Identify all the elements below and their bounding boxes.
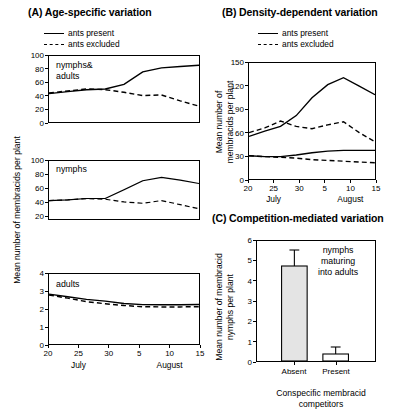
y-tick-mark — [245, 156, 248, 157]
y-tick-mark — [45, 216, 48, 217]
x-tick-label: 15 — [196, 349, 205, 358]
y-tick-label: 80 — [22, 64, 44, 73]
y-tick-label: 20 — [22, 105, 44, 114]
y-tick-mark — [45, 309, 48, 310]
y-tick-label: 0 — [222, 176, 244, 185]
y-tick-label: 2 — [234, 317, 252, 326]
x-tick-label: 30 — [295, 184, 304, 193]
panel-a-title: (A) Age-specific variation — [28, 6, 152, 18]
x-tick-label: 10 — [165, 349, 174, 358]
y-tick-label: 60 — [22, 78, 44, 87]
panel-c-x-caption-line1: Conspecific membracid — [276, 388, 365, 398]
series-ants-excluded-high-line — [249, 121, 375, 142]
x-tick-mark — [336, 362, 337, 365]
y-tick-mark — [253, 260, 256, 261]
x-tick-label: 20 — [44, 349, 53, 358]
x-tick-label: Present — [322, 367, 350, 376]
panel-a1-label-line1: nymphs& — [56, 60, 93, 70]
bar-absent — [282, 266, 308, 361]
panel-c-y-axis-label-line2: nymphs per plant — [225, 274, 235, 340]
y-tick-mark — [245, 132, 248, 133]
panel-c-annotation-line1: nymphs — [323, 245, 354, 255]
x-tick-mark — [294, 362, 295, 365]
month-label-august: August — [337, 194, 363, 204]
panel-c-title: (C) Competition-mediated variation — [212, 212, 384, 224]
x-tick-mark — [108, 345, 109, 348]
month-label-august: August — [157, 360, 183, 370]
y-tick-label: 1 — [22, 323, 44, 332]
panel-c-annotation: nymphs maturing into adults — [318, 245, 358, 278]
series-ants-present-line — [49, 177, 199, 200]
panel-c-y-axis-label-line1: Mean number of membracid — [214, 253, 224, 360]
y-tick-mark — [45, 95, 48, 96]
panel-a-legend: ants present ants excluded — [44, 28, 120, 50]
series-ants-present-high-line — [249, 78, 375, 137]
x-tick-label: Absent — [282, 367, 307, 376]
y-tick-mark — [245, 62, 248, 63]
legend-row-ants-present: ants present — [44, 28, 120, 39]
panel-c-x-axis-caption: Conspecific membracid competitors — [256, 388, 386, 409]
panel-b-title: (B) Density-dependent variation — [222, 6, 378, 18]
y-tick-mark — [45, 188, 48, 189]
y-tick-mark — [253, 321, 256, 322]
y-tick-label: 4 — [22, 269, 44, 278]
x-tick-mark — [139, 345, 140, 348]
bar-present — [323, 354, 349, 361]
y-tick-mark — [45, 160, 48, 161]
y-tick-mark — [45, 202, 48, 203]
panel-b-legend: ants present ants excluded — [258, 28, 334, 50]
legend-label-ants-present: ants present — [282, 28, 328, 39]
x-tick-label: 15 — [372, 184, 381, 193]
dashed-line-key-icon — [44, 41, 64, 48]
panel-a1-inplot-label: nymphs& adults — [56, 60, 93, 81]
legend-label-ants-present: ants present — [68, 28, 114, 39]
legend-row-ants-present: ants present — [258, 28, 334, 39]
y-tick-label: 0 — [22, 341, 44, 350]
x-tick-mark — [200, 345, 201, 348]
y-tick-label: 4 — [234, 276, 252, 285]
y-tick-label: 80 — [22, 170, 44, 179]
legend-label-ants-excluded: ants excluded — [282, 39, 334, 50]
x-tick-mark — [78, 345, 79, 348]
panel-a2-inplot-label: nymphs — [56, 164, 87, 175]
panel-b-plot — [248, 62, 376, 180]
x-tick-mark — [169, 345, 170, 348]
y-tick-mark — [45, 123, 48, 124]
x-tick-mark — [248, 180, 249, 183]
legend-label-ants-excluded: ants excluded — [68, 39, 120, 50]
y-tick-label: 100 — [22, 156, 44, 165]
y-tick-label: 60 — [222, 128, 244, 137]
legend-row-ants-excluded: ants excluded — [44, 39, 120, 50]
x-tick-label: 25 — [74, 349, 83, 358]
y-tick-mark — [45, 68, 48, 69]
y-tick-label: 0 — [22, 119, 44, 128]
month-label-july: July — [71, 360, 86, 370]
y-tick-mark — [253, 280, 256, 281]
y-tick-mark — [45, 55, 48, 56]
y-tick-label: 0 — [234, 358, 252, 367]
x-tick-mark — [376, 180, 377, 183]
y-tick-mark — [253, 341, 256, 342]
x-tick-label: 5 — [137, 349, 141, 358]
y-tick-mark — [45, 291, 48, 292]
solid-line-key-icon — [258, 30, 278, 37]
panel-b-y-axis-label-line1: Mean number of — [214, 91, 224, 154]
y-tick-mark — [253, 301, 256, 302]
x-tick-mark — [350, 180, 351, 183]
y-tick-label: 3 — [234, 297, 252, 306]
y-tick-mark — [245, 109, 248, 110]
solid-line-key-icon — [44, 30, 64, 37]
y-tick-mark — [45, 82, 48, 83]
y-tick-mark — [45, 109, 48, 110]
y-tick-label: 5 — [234, 256, 252, 265]
x-tick-label: 30 — [104, 349, 113, 358]
x-tick-mark — [273, 180, 274, 183]
panel-a-y-axis-label: Mean number of membracids per plant — [12, 85, 23, 335]
y-tick-label: 100 — [22, 51, 44, 60]
month-label-july: July — [266, 194, 281, 204]
panel-c-y-axis-label: Mean number of membracid nymphs per plan… — [214, 232, 235, 382]
panel-a3-inplot-label: adults — [56, 279, 79, 290]
y-tick-label: 30 — [222, 152, 244, 161]
y-tick-mark — [245, 85, 248, 86]
y-tick-label: 40 — [22, 91, 44, 100]
